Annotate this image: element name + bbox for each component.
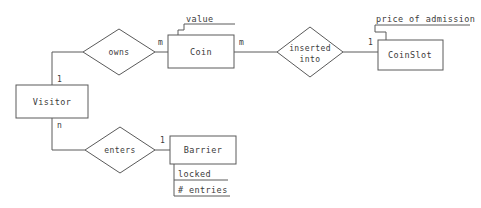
entity-coin[interactable]: Coin bbox=[168, 35, 234, 68]
relationship-enters-label: enters bbox=[104, 146, 135, 155]
entity-coinslot-label: CoinSlot bbox=[388, 50, 432, 60]
entity-coinslot[interactable]: CoinSlot bbox=[378, 40, 443, 70]
cardinality-visitor-owns: 1 bbox=[57, 75, 62, 84]
cardinality-enters-barrier: 1 bbox=[160, 136, 165, 145]
entity-barrier-label: Barrier bbox=[184, 145, 223, 155]
relationship-enters[interactable]: enters bbox=[85, 127, 155, 173]
relationship-inserted-into-label-line1: inserted bbox=[289, 44, 331, 53]
cardinality-coin-inserted: m bbox=[239, 38, 244, 47]
entity-visitor-label: Visitor bbox=[33, 97, 72, 107]
cardinality-owns-coin: m bbox=[158, 38, 163, 47]
er-diagram-canvas: Visitor Coin CoinSlot Barrier owns inser… bbox=[0, 0, 481, 208]
relationship-owns-label: owns bbox=[109, 48, 130, 57]
attribute-value-label: value bbox=[186, 14, 214, 24]
leader-price-to-coinslot bbox=[375, 25, 386, 40]
cardinality-visitor-enters: n bbox=[57, 121, 62, 130]
leader-value-to-coin bbox=[178, 24, 184, 35]
relationship-inserted-into-label-line2: into bbox=[300, 55, 321, 64]
cardinality-inserted-coinslot: 1 bbox=[368, 38, 373, 47]
relationship-inserted-into[interactable]: inserted into bbox=[277, 27, 343, 77]
attribute-locked-label: locked bbox=[178, 169, 211, 179]
entity-visitor[interactable]: Visitor bbox=[16, 85, 88, 118]
relationship-owns[interactable]: owns bbox=[83, 29, 155, 75]
er-diagram-svg: Visitor Coin CoinSlot Barrier owns inser… bbox=[0, 0, 481, 208]
entity-coin-label: Coin bbox=[190, 47, 212, 57]
attribute-entries-label: # entries bbox=[178, 185, 228, 195]
attribute-price-of-admission-label: price of admission bbox=[376, 14, 475, 24]
entity-barrier[interactable]: Barrier bbox=[170, 136, 236, 164]
